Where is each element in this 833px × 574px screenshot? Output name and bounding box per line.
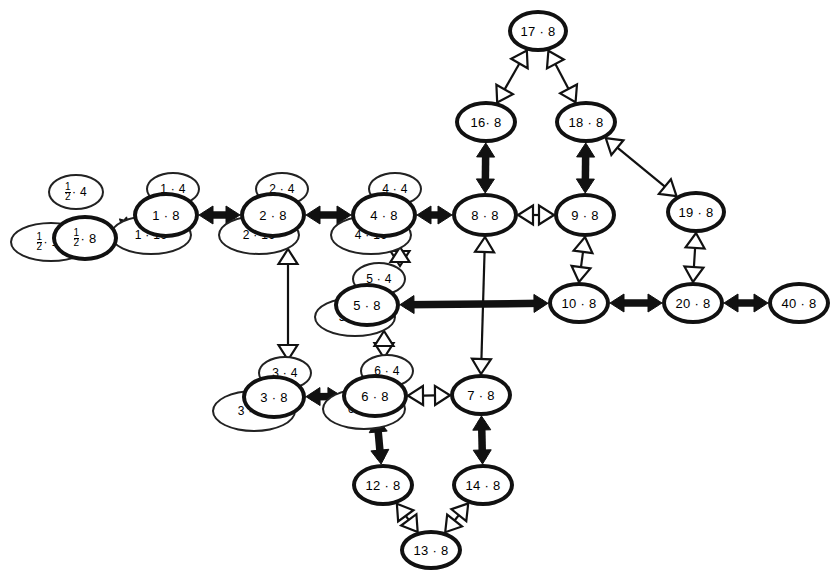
node-label: 12 · 8 (365, 478, 400, 493)
graph-node-n4[interactable]: 4 · 8 (351, 192, 417, 238)
fraction-one-half: 12 (74, 229, 80, 246)
edge-n18-to-n19 (606, 138, 677, 196)
graph-node-n8[interactable]: 8 · 8 (452, 193, 518, 237)
graph-node-n40[interactable]: 40 · 8 (768, 282, 830, 324)
edge-n6-to-n7 (408, 386, 450, 405)
graph-node-n20[interactable]: 20 · 8 (662, 282, 724, 324)
edge-n14-to-n13 (445, 503, 468, 532)
graph-node-n7[interactable]: 7 · 8 (450, 374, 512, 416)
edge-n12-to-n13 (397, 504, 418, 532)
graph-node-n16[interactable]: 16· 8 (455, 101, 517, 143)
graph-node-n19[interactable]: 19 · 8 (666, 191, 726, 233)
node-label: 14 · 8 (465, 478, 500, 493)
node-label: 18 · 8 (568, 115, 603, 130)
node-label: 1 · 8 (152, 208, 180, 223)
edge-n8-to-n16 (476, 143, 494, 193)
node-label: 7 · 8 (467, 388, 495, 403)
edge-n9-to-n18 (576, 143, 594, 193)
graph-node-half4[interactable]: 12 · 4 (48, 174, 104, 210)
edge-n10-to-n20 (610, 294, 662, 312)
node-label: 12 · 8 (74, 229, 97, 246)
edge-n2_16-to-n3_4 (279, 249, 298, 360)
node-label: 6 · 8 (361, 389, 389, 404)
graph-node-n13[interactable]: 13 · 8 (400, 530, 462, 570)
graph-node-half[interactable]: 12 · 8 (52, 215, 118, 261)
edge-n9-to-n10 (572, 237, 593, 282)
graph-node-n1[interactable]: 1 · 8 (133, 192, 199, 238)
graph-node-n17[interactable]: 17 · 8 (508, 10, 568, 52)
edge-n7-to-n14 (473, 416, 491, 464)
edge-n8-to-n9 (518, 206, 554, 225)
node-label: 17 · 8 (520, 24, 555, 39)
node-label: 19 · 8 (678, 205, 713, 220)
node-label: 4 · 8 (370, 208, 398, 223)
graph-node-n10[interactable]: 10 · 8 (548, 282, 610, 324)
diagram-canvas: 12 · 161 · 162 · 164 · 165 · 163 · 166 ·… (0, 0, 833, 574)
graph-node-n14[interactable]: 14 · 8 (452, 464, 514, 506)
graph-node-n2[interactable]: 2 · 8 (240, 192, 306, 238)
graph-node-n6[interactable]: 6 · 8 (342, 374, 408, 418)
graph-node-n3[interactable]: 3 · 8 (242, 375, 306, 419)
node-label: 9 · 8 (571, 208, 599, 223)
edge-n20-to-n40 (724, 294, 768, 312)
node-label: 20 · 8 (675, 296, 710, 311)
node-label: 13 · 8 (413, 543, 448, 558)
graph-node-n12[interactable]: 12 · 8 (352, 464, 414, 506)
edge-n16-to-n17 (496, 50, 527, 102)
node-label: 8 · 8 (471, 208, 499, 223)
node-label: 5 · 8 (353, 298, 381, 313)
edge-n19-to-n20 (684, 233, 704, 282)
fraction-one-half: 12 (65, 183, 71, 200)
edge-n4-to-n8 (417, 206, 452, 224)
node-label: 12 · 4 (65, 183, 87, 200)
node-multiplier: · 8 (80, 231, 96, 246)
graph-node-n9[interactable]: 9 · 8 (554, 193, 616, 237)
node-label: 16· 8 (470, 115, 501, 130)
node-label: 10 · 8 (561, 296, 596, 311)
edge-n18-to-n17 (547, 51, 577, 103)
node-label: 2 · 8 (259, 208, 287, 223)
graph-node-n5[interactable]: 5 · 8 (334, 283, 400, 327)
node-multiplier: · 4 (72, 185, 87, 199)
edge-n5-to-n10 (400, 294, 548, 313)
node-label: 40 · 8 (781, 296, 816, 311)
fraction-one-half: 12 (37, 233, 43, 250)
node-label: 3 · 8 (260, 390, 288, 405)
graph-node-n18[interactable]: 18 · 8 (555, 101, 617, 143)
